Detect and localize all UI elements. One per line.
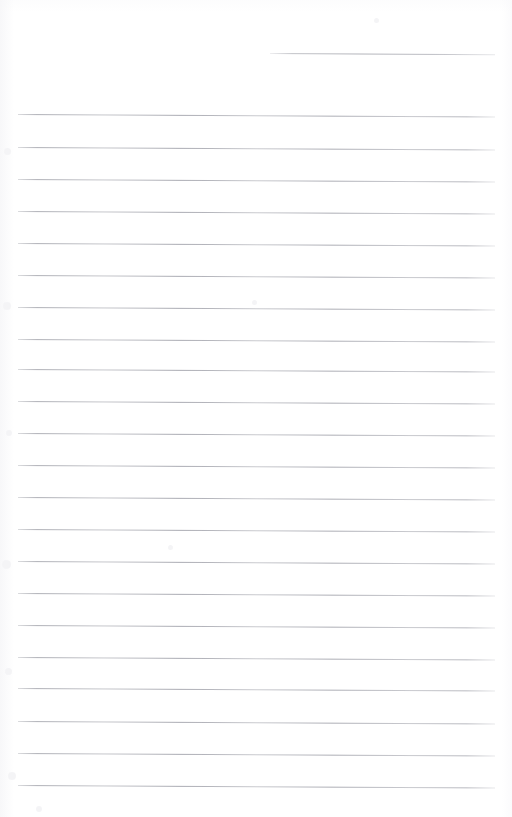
- scan-speck: [3, 302, 11, 310]
- scan-speck: [6, 430, 12, 436]
- scan-speck: [5, 668, 12, 675]
- scan-speck: [36, 806, 42, 812]
- scanned-page: [0, 0, 512, 817]
- scan-speck: [2, 560, 11, 569]
- scan-speck: [374, 18, 379, 23]
- scan-speck: [8, 772, 16, 780]
- writing-area[interactable]: [18, 100, 495, 800]
- rule-line-partial: [270, 53, 495, 55]
- scan-speck: [4, 148, 11, 155]
